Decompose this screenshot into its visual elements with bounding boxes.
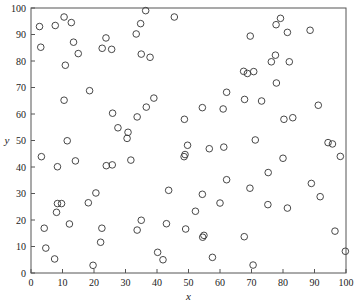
- data-point: [289, 114, 296, 121]
- data-point: [137, 20, 144, 27]
- x-tick-label: 20: [89, 277, 99, 288]
- data-point: [85, 199, 92, 206]
- data-point: [258, 98, 265, 105]
- data-point: [147, 54, 154, 61]
- data-point: [61, 14, 68, 21]
- data-point: [220, 144, 227, 151]
- data-point: [138, 217, 145, 224]
- data-point: [199, 104, 206, 111]
- x-tick-label: 10: [58, 277, 68, 288]
- data-point: [93, 190, 100, 197]
- data-point: [337, 153, 344, 160]
- data-point: [138, 51, 145, 58]
- data-points: [36, 7, 348, 268]
- data-point: [90, 262, 97, 269]
- data-point: [329, 141, 336, 148]
- data-point: [265, 169, 272, 176]
- y-tick-label: 90: [16, 29, 26, 40]
- data-point: [133, 31, 140, 38]
- data-point: [99, 45, 106, 52]
- data-point: [284, 205, 291, 212]
- data-point: [241, 96, 248, 103]
- data-point: [124, 135, 131, 142]
- data-point: [184, 142, 191, 149]
- data-point: [171, 14, 178, 21]
- data-point: [223, 89, 230, 96]
- data-point: [72, 158, 79, 165]
- data-point: [143, 104, 150, 111]
- x-axis: 0102030405060708090100: [29, 269, 354, 288]
- data-point: [247, 33, 254, 40]
- data-point: [103, 35, 110, 42]
- data-point: [37, 44, 44, 51]
- data-point: [286, 58, 293, 65]
- y-tick-label: 10: [16, 241, 26, 252]
- data-point: [52, 22, 59, 29]
- plot-frame: [31, 8, 346, 273]
- data-point: [217, 200, 224, 207]
- x-tick-label: 70: [247, 277, 257, 288]
- data-point: [199, 191, 206, 198]
- data-point: [315, 102, 322, 109]
- data-point: [75, 50, 82, 57]
- data-point: [125, 129, 132, 136]
- data-point: [247, 185, 254, 192]
- data-point: [209, 254, 216, 261]
- x-tick-label: 50: [184, 277, 194, 288]
- data-point: [307, 27, 314, 34]
- x-tick-label: 30: [121, 277, 131, 288]
- data-point: [277, 15, 284, 22]
- data-point: [165, 187, 172, 194]
- data-point: [181, 116, 188, 123]
- data-point: [115, 124, 122, 131]
- data-point: [192, 208, 199, 215]
- data-point: [163, 220, 170, 227]
- y-tick-label: 100: [11, 3, 26, 14]
- y-tick-label: 80: [16, 56, 26, 67]
- data-point: [51, 256, 58, 263]
- y-tick-label: 50: [16, 135, 26, 146]
- data-point: [182, 226, 189, 233]
- data-point: [109, 162, 116, 169]
- y-tick-label: 40: [16, 162, 26, 173]
- x-tick-label: 80: [278, 277, 288, 288]
- data-point: [332, 228, 339, 235]
- x-tick-label: 100: [339, 277, 354, 288]
- data-point: [199, 234, 206, 241]
- data-point: [273, 80, 280, 87]
- data-point: [86, 87, 93, 94]
- data-point: [281, 116, 288, 123]
- data-point: [284, 29, 291, 36]
- data-point: [36, 23, 43, 30]
- x-tick-label: 60: [215, 277, 225, 288]
- y-tick-label: 0: [21, 268, 26, 279]
- data-point: [128, 157, 135, 164]
- data-point: [108, 46, 115, 53]
- y-tick-label: 70: [16, 82, 26, 93]
- data-point: [244, 70, 251, 77]
- data-point: [61, 97, 68, 104]
- data-point: [58, 200, 65, 207]
- data-point: [223, 176, 230, 183]
- data-point: [99, 225, 106, 232]
- y-axis-label: y: [4, 134, 10, 146]
- data-point: [38, 153, 45, 160]
- x-axis-label: x: [185, 290, 191, 302]
- y-tick-label: 20: [16, 215, 26, 226]
- data-point: [342, 248, 349, 255]
- x-tick-label: 0: [29, 277, 34, 288]
- data-point: [62, 62, 69, 69]
- data-point: [97, 239, 104, 246]
- data-point: [134, 227, 141, 234]
- data-point: [70, 39, 77, 46]
- data-point: [252, 137, 259, 144]
- data-point: [206, 145, 213, 152]
- data-point: [160, 256, 167, 263]
- data-point: [54, 163, 61, 170]
- data-point: [53, 209, 60, 216]
- data-point: [250, 68, 257, 75]
- data-point: [308, 180, 315, 187]
- data-point: [64, 137, 71, 144]
- data-point: [134, 114, 141, 121]
- data-point: [220, 106, 227, 113]
